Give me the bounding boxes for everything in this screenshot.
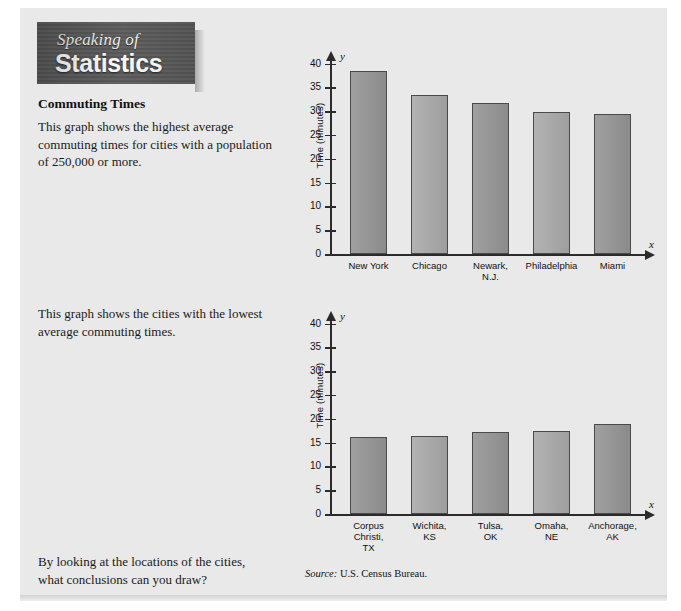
article-paragraph-3: By looking at the locations of the citie… (38, 553, 273, 588)
article-paragraph-1: This graph shows the highest average com… (38, 118, 273, 171)
category-label-line: Christi, (338, 531, 399, 542)
chart1-bars (332, 54, 632, 254)
bar (594, 424, 632, 514)
panel-bottom-edge (20, 595, 667, 601)
chart2-tick-label: 20 (297, 413, 321, 424)
category-label: Tulsa,OK (460, 520, 521, 542)
category-label: New York (338, 260, 399, 271)
chart2-tick-label: 40 (297, 318, 321, 329)
chart1-tick-label: 5 (297, 224, 321, 235)
bar (472, 432, 510, 514)
bar (350, 71, 388, 254)
category-label-line: NE (521, 531, 582, 542)
chart2-tick-label: 30 (297, 365, 321, 376)
chart1-tick-label: 20 (297, 153, 321, 164)
category-label-line: Wichita, (399, 520, 460, 531)
category-label-line: Miami (582, 260, 643, 271)
category-label: Newark,N.J. (460, 260, 521, 282)
source-note: Source: U.S. Census Bureau. (305, 568, 427, 579)
chart2-x-axis-symbol: x (649, 498, 654, 510)
chart1-tick-label: 15 (297, 177, 321, 188)
banner-shadow (195, 30, 205, 92)
category-label: Anchorage,AK (582, 520, 643, 542)
banner-title-line1: Speaking of (57, 30, 139, 50)
category-label-line: Philadelphia (521, 260, 582, 271)
category-label: Philadelphia (521, 260, 582, 271)
category-label-line: New York (338, 260, 399, 271)
article-paragraph-2: This graph shows the cities with the low… (38, 305, 273, 340)
chart1-x-axis-arrow (645, 250, 655, 260)
category-label-line: Omaha, (521, 520, 582, 531)
chart1-tick-label: 35 (297, 81, 321, 92)
category-label-line: OK (460, 531, 521, 542)
chart2-bars (332, 314, 632, 514)
source-label: Source: (305, 568, 337, 579)
bar (594, 114, 632, 254)
category-label: Wichita,KS (399, 520, 460, 542)
category-label: Omaha,NE (521, 520, 582, 542)
bar (533, 431, 571, 514)
chart-lowest-commuting-times: Time (minutes) y x 0510152025303540 Corp… (300, 312, 660, 544)
bar (350, 437, 388, 514)
chart1-tick-label: 0 (297, 248, 321, 259)
article-heading: Commuting Times (38, 96, 145, 112)
chart2-tick-label: 5 (297, 484, 321, 495)
chart1-x-axis (330, 254, 646, 256)
chart2-tick-label: 35 (297, 341, 321, 352)
chart1-tick-label: 40 (297, 58, 321, 69)
category-label-line: AK (582, 531, 643, 542)
chart2-tick (325, 514, 336, 516)
page-root: Speaking of Statistics Commuting Times T… (0, 0, 681, 611)
bar (411, 95, 449, 254)
chart1-tick-label: 10 (297, 200, 321, 211)
category-label-line: Corpus (338, 520, 399, 531)
bar (411, 436, 449, 514)
bar (533, 112, 571, 254)
source-text: U.S. Census Bureau. (340, 568, 427, 579)
speaking-of-statistics-banner: Speaking of Statistics (37, 22, 195, 84)
category-label-line: TX (338, 542, 399, 553)
category-label: Miami (582, 260, 643, 271)
chart2-tick-label: 15 (297, 437, 321, 448)
category-label-line: Chicago (399, 260, 460, 271)
chart2-x-axis (330, 514, 646, 516)
category-label: Chicago (399, 260, 460, 271)
chart2-x-axis-arrow (645, 510, 655, 520)
chart1-tick-label: 25 (297, 129, 321, 140)
category-label-line: Newark, (460, 260, 521, 271)
chart2-tick-label: 0 (297, 508, 321, 519)
chart1-x-axis-symbol: x (649, 238, 654, 250)
chart1-tick-label: 30 (297, 105, 321, 116)
chart2-tick-label: 10 (297, 460, 321, 471)
category-label-line: Tulsa, (460, 520, 521, 531)
chart2-tick-label: 25 (297, 389, 321, 400)
bar (472, 103, 510, 254)
banner-title-line2: Statistics (55, 49, 162, 78)
category-label-line: N.J. (460, 271, 521, 282)
category-label-line: KS (399, 531, 460, 542)
chart1-tick (325, 254, 336, 256)
category-label-line: Anchorage, (582, 520, 643, 531)
chart-highest-commuting-times: Time (minutes) y x 0510152025303540 New … (300, 52, 660, 284)
category-label: CorpusChristi,TX (338, 520, 399, 553)
